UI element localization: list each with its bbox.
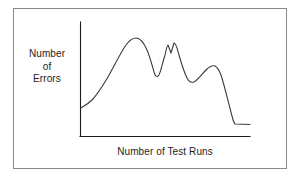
y-axis-label-line-2: of <box>18 61 76 74</box>
error-curve <box>81 38 250 125</box>
x-axis-label: Number of Test Runs <box>80 146 250 158</box>
figure-root: Number of Errors Number of Test Runs <box>0 0 300 177</box>
y-axis-label-line-1: Number <box>18 48 76 61</box>
y-axis-label: Number of Errors <box>18 48 76 86</box>
y-axis-label-line-3: Errors <box>18 73 76 86</box>
